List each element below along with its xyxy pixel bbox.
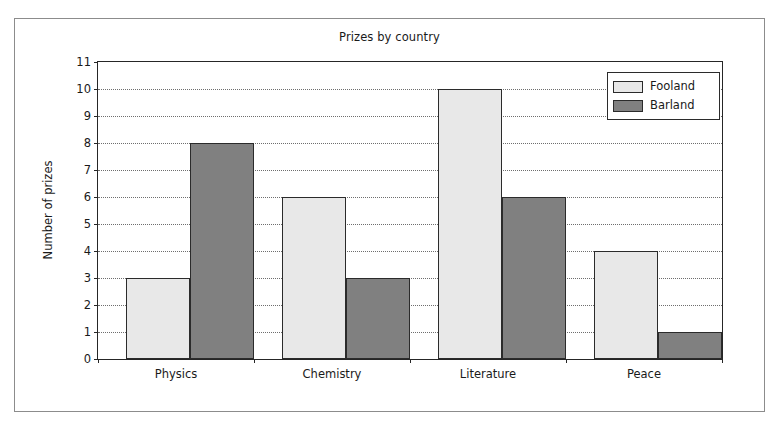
y-tick-mark bbox=[94, 305, 98, 306]
y-tick-mark bbox=[94, 197, 98, 198]
y-tick-label: 4 bbox=[84, 244, 91, 258]
legend-swatch-icon bbox=[613, 81, 643, 93]
legend: FoolandBarland bbox=[607, 72, 720, 120]
plot-area: FoolandBarland 01234567891011PhysicsChem… bbox=[97, 61, 723, 360]
x-tick-label-literature: Literature bbox=[460, 367, 516, 381]
y-tick-label: 9 bbox=[84, 109, 91, 123]
legend-label: Barland bbox=[650, 100, 695, 112]
x-tick-label-peace: Peace bbox=[627, 367, 661, 381]
x-tick-mark bbox=[410, 359, 411, 363]
y-axis-label-text: Number of prizes bbox=[41, 160, 55, 259]
y-tick-label: 1 bbox=[84, 325, 91, 339]
chart-title: Prizes by country bbox=[15, 30, 764, 44]
y-tick-mark bbox=[94, 251, 98, 252]
y-tick-mark bbox=[94, 62, 98, 63]
y-tick-label: 10 bbox=[76, 82, 91, 96]
y-tick-label: 5 bbox=[84, 217, 91, 231]
y-tick-mark bbox=[94, 116, 98, 117]
bar-fooland-peace bbox=[594, 251, 658, 359]
y-tick-mark bbox=[94, 143, 98, 144]
x-tick-label-physics: Physics bbox=[155, 367, 198, 381]
bar-fooland-physics bbox=[126, 278, 190, 359]
bar-barland-literature bbox=[502, 197, 566, 359]
y-tick-label: 7 bbox=[84, 163, 91, 177]
y-tick-mark bbox=[94, 224, 98, 225]
x-tick-mark bbox=[722, 359, 723, 363]
x-tick-label-chemistry: Chemistry bbox=[303, 367, 362, 381]
x-tick-mark bbox=[98, 359, 99, 363]
legend-label: Fooland bbox=[650, 81, 695, 93]
y-tick-mark bbox=[94, 89, 98, 90]
legend-item-fooland[interactable]: Fooland bbox=[613, 77, 714, 96]
x-tick-mark bbox=[254, 359, 255, 363]
legend-swatch-icon bbox=[613, 100, 643, 112]
bar-barland-peace bbox=[658, 332, 722, 359]
y-tick-label: 8 bbox=[84, 136, 91, 150]
bar-barland-physics bbox=[190, 143, 254, 359]
bar-fooland-chemistry bbox=[282, 197, 346, 359]
y-tick-label: 0 bbox=[84, 352, 91, 366]
legend-item-barland[interactable]: Barland bbox=[613, 96, 714, 115]
x-tick-mark bbox=[566, 359, 567, 363]
y-tick-label: 11 bbox=[76, 55, 91, 69]
y-tick-label: 2 bbox=[84, 298, 91, 312]
y-tick-label: 6 bbox=[84, 190, 91, 204]
y-tick-mark bbox=[94, 278, 98, 279]
bar-barland-chemistry bbox=[346, 278, 410, 359]
y-tick-mark bbox=[94, 170, 98, 171]
y-tick-label: 3 bbox=[84, 271, 91, 285]
y-tick-mark bbox=[94, 332, 98, 333]
y-axis-label: Number of prizes bbox=[39, 61, 57, 358]
figure-panel: Prizes by country Number of prizes Foola… bbox=[14, 18, 765, 412]
bar-fooland-literature bbox=[438, 89, 502, 359]
